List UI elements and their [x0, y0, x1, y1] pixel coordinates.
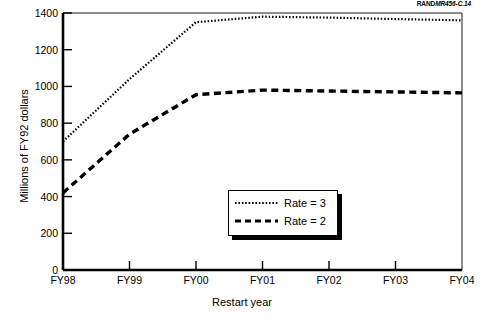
legend-line-sample-dashed [235, 216, 278, 226]
legend-label-rate-3: Rate = 3 [284, 198, 326, 209]
legend-line-sample-dotted [235, 198, 278, 208]
series-line-1 [63, 17, 462, 142]
series-line-2 [63, 90, 462, 193]
chart-legend: Rate = 3 Rate = 2 [228, 190, 338, 236]
legend-entry-rate-3: Rate = 3 [235, 194, 326, 212]
legend-label-rate-2: Rate = 2 [284, 216, 326, 227]
plot-area [0, 0, 484, 322]
chart-figure: RANDMR456-C.14 Millions of FY92 dollars … [0, 0, 484, 322]
legend-entry-rate-2: Rate = 2 [235, 212, 326, 230]
